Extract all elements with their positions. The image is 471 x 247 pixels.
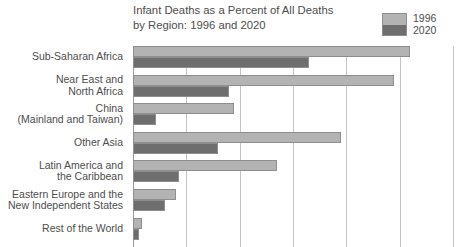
y-axis-tick-label: Latin America and the Caribbean xyxy=(0,160,123,183)
legend-swatch-2020 xyxy=(383,25,406,36)
bar-2020 xyxy=(133,229,139,240)
bar-1996 xyxy=(133,189,176,200)
bar-2020 xyxy=(133,200,165,211)
y-axis-tick-label: Other Asia xyxy=(0,137,123,148)
y-axis-tick-label: Near East and North Africa xyxy=(0,74,123,97)
bar-2020 xyxy=(133,86,229,97)
page-title: Infant Deaths as a Percent of All Deaths… xyxy=(133,3,383,32)
bar-2020 xyxy=(133,114,156,125)
y-axis-tick-label: Rest of the World xyxy=(0,223,123,234)
bar-group xyxy=(133,189,453,211)
bar-group xyxy=(133,46,453,68)
bar-1996 xyxy=(133,132,341,143)
bar-2020 xyxy=(133,171,179,182)
bar-group xyxy=(133,160,453,182)
chart-legend: 1996 2020 xyxy=(382,13,436,36)
legend-swatch-1996 xyxy=(383,14,406,25)
bar-1996 xyxy=(133,46,410,57)
legend-swatch-group xyxy=(382,13,407,36)
gridline xyxy=(453,46,454,247)
bar-2020 xyxy=(133,143,218,154)
bar-1996 xyxy=(133,75,394,86)
bar-group xyxy=(133,132,453,154)
bar-1996 xyxy=(133,103,234,114)
bar-group xyxy=(133,75,453,97)
y-axis-tick-label: China (Mainland and Taiwan) xyxy=(0,103,123,126)
legend-label-1996: 1996 xyxy=(413,13,436,25)
bar-chart: Infant Deaths as a Percent of All Deaths… xyxy=(0,0,471,247)
y-axis-tick-label: Eastern Europe and the New Independent S… xyxy=(0,189,123,212)
plot-area xyxy=(133,46,453,247)
legend-label-2020: 2020 xyxy=(413,25,436,37)
bar-1996 xyxy=(133,160,277,171)
y-axis-tick-labels: Sub-Saharan AfricaNear East and North Af… xyxy=(0,46,128,247)
bar-group xyxy=(133,218,453,240)
bar-1996 xyxy=(133,218,142,229)
bar-series-container xyxy=(133,46,453,247)
bar-group xyxy=(133,103,453,125)
y-axis-tick-label: Sub-Saharan Africa xyxy=(0,51,123,62)
bar-2020 xyxy=(133,57,309,68)
legend-label-group: 1996 2020 xyxy=(413,13,436,36)
